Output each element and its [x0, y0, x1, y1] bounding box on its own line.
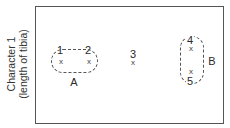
y-axis-label-line1: Character 1	[5, 29, 17, 98]
point-1-marker: x	[59, 58, 63, 66]
cluster-b-label: B	[208, 56, 215, 67]
point-2-marker: x	[87, 58, 91, 66]
point-5-label: 5	[186, 76, 194, 87]
cluster-a-label: A	[70, 77, 77, 88]
y-axis-label: Character 1 (length of tibia)	[5, 29, 29, 98]
point-1-label: 1	[57, 45, 63, 56]
point-3-marker: x	[131, 59, 135, 67]
point-2-label: 2	[85, 45, 91, 56]
y-axis-label-line2: (length of tibia)	[17, 29, 29, 98]
point-4-marker: x	[189, 45, 193, 53]
